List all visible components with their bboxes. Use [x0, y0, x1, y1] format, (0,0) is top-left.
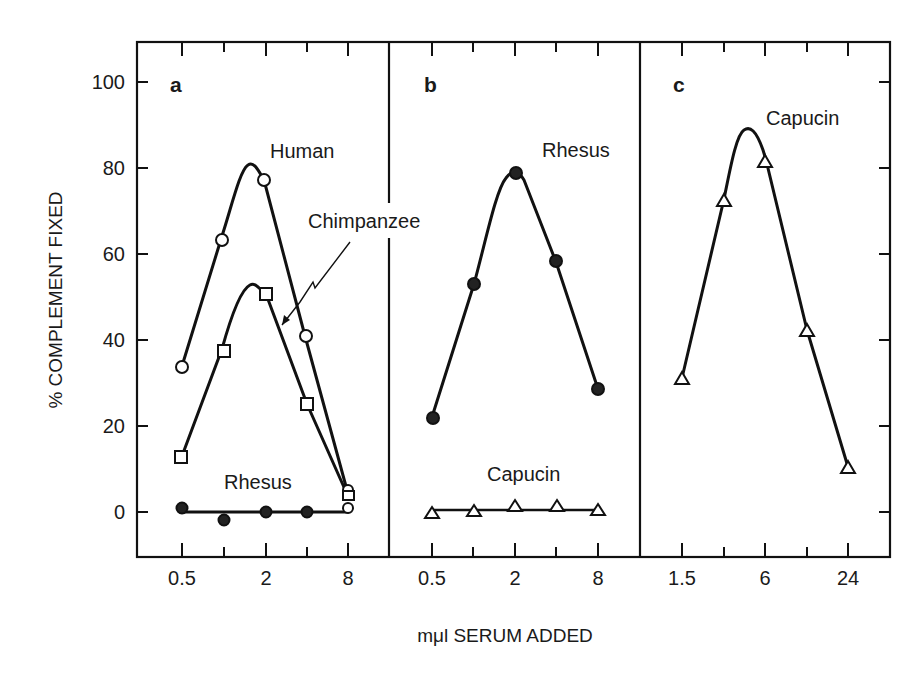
y-tick-100: 100: [92, 71, 125, 93]
label-chimpanzee: Chimpanzee: [308, 210, 420, 232]
capucin-curve-c: [682, 129, 848, 467]
x-tick-b-2: 2: [509, 567, 520, 589]
label-rhesus-a: Rhesus: [224, 471, 292, 493]
rhesus-curve-b: [432, 172, 598, 417]
chimpanzee-curve-a: [182, 284, 347, 494]
y-tick-20: 20: [103, 415, 125, 437]
x-tick-b-8: 8: [592, 567, 603, 589]
label-capucin-c: Capucin: [766, 107, 839, 129]
panel-label-c: c: [673, 73, 685, 96]
x-tick-c-24: 24: [837, 567, 859, 589]
x-tick-a-2: 2: [260, 567, 271, 589]
x-tick-b-0.5: 0.5: [418, 567, 446, 589]
y-tick-80: 80: [103, 157, 125, 179]
y-tick-0: 0: [114, 501, 125, 523]
panel-label-a: a: [170, 73, 182, 96]
x-tick-a-0.5: 0.5: [168, 567, 196, 589]
rhesus-markers-a: [177, 503, 354, 526]
capucin-markers-c: [675, 155, 855, 473]
label-human: Human: [270, 140, 334, 162]
chimpanzee-markers: [175, 288, 354, 500]
complement-fixation-chart: 100 80 60 40 20 0 % COMPLEMENT FIXED 0.5…: [0, 0, 922, 683]
x-axis-title: mμl SERUM ADDED: [417, 625, 593, 646]
y-tick-60: 60: [103, 243, 125, 265]
label-capucin-b: Capucin: [487, 463, 560, 485]
y-tick-40: 40: [103, 329, 125, 351]
label-rhesus-b: Rhesus: [542, 139, 610, 161]
x-tick-c-6: 6: [759, 567, 770, 589]
x-tick-a-8: 8: [342, 567, 353, 589]
y-axis-title: % COMPLEMENT FIXED: [45, 191, 66, 408]
y-ticks: [137, 82, 890, 512]
x-tick-c-1.5: 1.5: [668, 567, 696, 589]
panel-label-b: b: [424, 73, 437, 96]
